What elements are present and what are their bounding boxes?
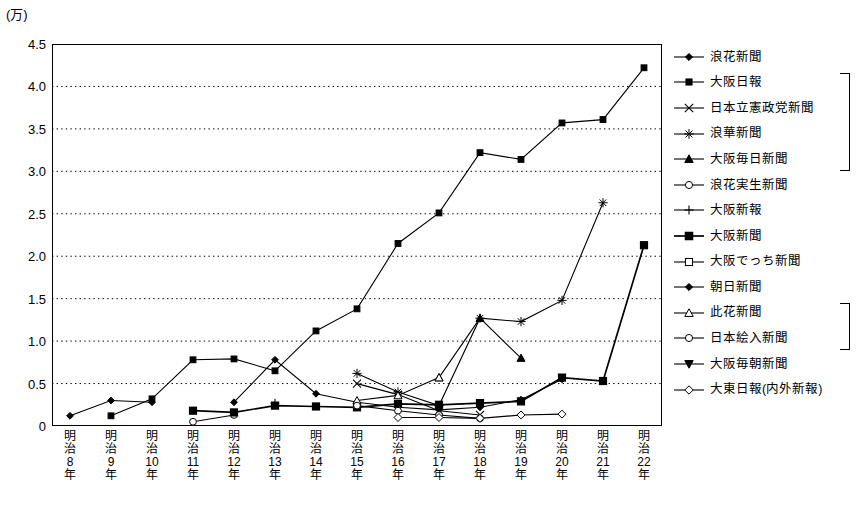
legend-item: 大阪日報 (672, 70, 852, 96)
legend-item: 朝日新聞 (672, 274, 852, 300)
legend-label: 浪華新聞 (710, 127, 762, 140)
legend-item: 浪華新聞 (672, 121, 852, 147)
y-tick-label: 3.5 (6, 121, 46, 136)
legend-marker-icon (672, 127, 706, 141)
legend-item: 浪花実生新聞 (672, 172, 852, 198)
legend-label: 大阪毎日新聞 (710, 153, 788, 166)
legend-marker-icon (672, 357, 706, 371)
x-tick-label: 明治21年 (592, 430, 614, 482)
legend-marker-icon (672, 280, 706, 294)
x-tick-label: 明治15年 (346, 430, 368, 482)
y-tick-label: 2.0 (6, 249, 46, 264)
x-tick-label: 明治12年 (223, 430, 245, 482)
legend-label: 大阪新聞 (710, 230, 762, 243)
legend-marker-icon (672, 50, 706, 64)
x-tick-label: 明治11年 (182, 430, 204, 482)
y-tick-label: 0.5 (6, 376, 46, 391)
legend-label: 大阪新報 (710, 204, 762, 217)
series-line (193, 415, 234, 422)
x-tick-label: 明治16年 (387, 430, 409, 482)
legend-marker-icon (672, 306, 706, 320)
legend-label: 浪花実生新聞 (710, 179, 788, 192)
chart-legend: 浪花新聞大阪日報日本立憲政党新聞浪華新聞大阪毎日新聞浪花実生新聞大阪新報大阪新聞… (672, 44, 852, 402)
plot-area (52, 44, 662, 426)
legend-item: 大阪毎日新聞 (672, 146, 852, 172)
y-axis-tick-labels: 00.51.01.52.02.53.03.54.04.5 (0, 44, 46, 426)
legend-item: 大阪毎朝新聞 (672, 351, 852, 377)
x-tick-label: 明治9年 (100, 430, 122, 482)
x-tick-label: 明治20年 (551, 430, 573, 482)
y-tick-label: 4.5 (6, 37, 46, 52)
legend-item: 大阪でっち新聞 (672, 249, 852, 275)
y-tick-label: 1.0 (6, 334, 46, 349)
legend-label: 大阪毎朝新聞 (710, 358, 788, 371)
legend-label: 日本絵入新聞 (710, 332, 788, 345)
legend-marker-icon (672, 383, 706, 397)
legend-item: 大阪新報 (672, 198, 852, 224)
legend-label: 大東日報(内外新報) (710, 383, 822, 396)
legend-marker-icon (672, 75, 706, 89)
y-tick-label: 3.0 (6, 164, 46, 179)
x-tick-label: 明治13年 (264, 430, 286, 482)
legend-item: 此花新聞 (672, 300, 852, 326)
legend-item: 日本立憲政党新聞 (672, 95, 852, 121)
y-tick-label: 4.0 (6, 79, 46, 94)
legend-marker-icon (672, 331, 706, 345)
legend-label: 浪花新聞 (710, 51, 762, 64)
legend-marker-icon (672, 203, 706, 217)
legend-label: 大阪日報 (710, 76, 762, 89)
legend-item: 浪花新聞 (672, 44, 852, 70)
legend-marker-icon (672, 152, 706, 166)
legend-item: 大東日報(内外新報) (672, 377, 852, 403)
legend-marker-icon (672, 101, 706, 115)
legend-item: 大阪新聞 (672, 223, 852, 249)
x-tick-label: 明治22年 (633, 430, 655, 482)
legend-label: 日本立憲政党新聞 (710, 102, 814, 115)
series-line (439, 318, 521, 377)
x-tick-label: 明治10年 (141, 430, 163, 482)
legend-marker-icon (672, 229, 706, 243)
y-tick-label: 1.5 (6, 291, 46, 306)
y-tick-label: 2.5 (6, 206, 46, 221)
chart-page: (万) 00.51.01.52.02.53.03.54.04.5 明治8年明治9… (0, 0, 857, 518)
legend-group-bracket (840, 303, 850, 350)
y-tick-label: 0 (6, 419, 46, 434)
chart-lines (52, 44, 662, 426)
legend-group-bracket (840, 73, 850, 171)
x-tick-label: 明治17年 (428, 430, 450, 482)
y-axis-unit-label: (万) (6, 4, 28, 23)
legend-item: 日本絵入新聞 (672, 326, 852, 352)
x-tick-label: 明治19年 (510, 430, 532, 482)
x-axis-tick-labels: 明治8年明治9年明治10年明治11年明治12年明治13年明治14年明治15年明治… (52, 430, 662, 516)
x-tick-label: 明治14年 (305, 430, 327, 482)
series-line (193, 245, 644, 412)
legend-marker-icon (672, 178, 706, 192)
legend-label: 朝日新聞 (710, 281, 762, 294)
legend-marker-icon (672, 255, 706, 269)
series-line (357, 406, 480, 419)
legend-label: 大阪でっち新聞 (710, 255, 801, 268)
x-tick-label: 明治8年 (59, 430, 81, 482)
legend-label: 此花新聞 (710, 306, 762, 319)
x-tick-label: 明治18年 (469, 430, 491, 482)
